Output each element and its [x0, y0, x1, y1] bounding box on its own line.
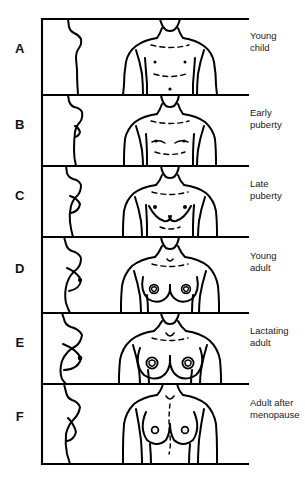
front-d-neck-right [178, 246, 185, 257]
front-e-areola-right [182, 357, 193, 368]
front-f-shoulder-left [123, 395, 157, 464]
front-e-head-jaw [161, 313, 179, 324]
profile-a-chest-contour [68, 19, 81, 95]
front-b-clavicle-line [151, 121, 189, 124]
front-e-breast-contour-right [170, 348, 202, 379]
panel-f-artwork [64, 384, 217, 464]
front-b-breast-bud-left [152, 141, 165, 143]
front-d-shoulder-right [185, 257, 219, 313]
front-d-torso [121, 237, 219, 313]
profile-f-chest-contour [64, 384, 80, 464]
front-b-breast-bud-right [175, 141, 188, 143]
front-b-shoulder-right [183, 114, 216, 166]
front-f-torso-side-left [150, 444, 151, 464]
front-f-neck-right [177, 384, 183, 395]
profile-f-breast-sagging [67, 418, 76, 441]
stage-letter-c: C [0, 188, 40, 203]
front-e-arm-inner-left [133, 345, 140, 384]
front-e-torso-side-right [191, 370, 192, 384]
front-b-neck-right [178, 104, 183, 114]
front-b-torso-side-left [146, 134, 147, 166]
front-f-areola-left [152, 427, 159, 434]
front-b-torso-side-right [193, 134, 194, 166]
front-d-shoulder-left [121, 257, 155, 313]
front-d-head-jaw [161, 237, 179, 249]
front-a-torso [123, 19, 217, 95]
front-e-torso-side-left [148, 370, 149, 384]
panel-frame [42, 19, 248, 464]
front-c-nipple-right [183, 205, 187, 209]
profile-c-breast-mound [70, 196, 80, 213]
front-c-neck-right [178, 175, 184, 185]
stage-letter-e: E [0, 335, 40, 350]
front-b-ribcage-line [155, 152, 185, 155]
front-d-arm-inner-left [134, 271, 141, 313]
panel-d-artwork [64, 237, 219, 313]
profile-e-breast-mound [63, 344, 81, 370]
front-d-breast-contour-right [170, 277, 198, 302]
front-f-torso-side-right [189, 444, 190, 464]
front-a-shoulder-left [123, 38, 157, 95]
front-c-torso-side-left [146, 205, 147, 237]
front-d-torso-side-right [192, 295, 193, 313]
front-f-breast-contour-left [143, 412, 170, 444]
front-a-clavicle-line [151, 45, 189, 48]
stage-label-adult-after-menopause: Adult after menopause [250, 397, 305, 420]
front-e-shoulder-right [186, 331, 221, 384]
front-c-breast-contour-left [149, 206, 171, 221]
front-a-neck-right [178, 28, 183, 38]
profile-d-breast-mound [67, 268, 81, 291]
front-a-umbilicus [168, 87, 171, 90]
front-f-breast-contour-right [170, 412, 197, 444]
front-e-neck-left [154, 321, 162, 331]
front-e-areola-left [146, 357, 157, 368]
front-b-neck-left [157, 104, 162, 114]
stage-label-early-puberty: Early puberty [250, 107, 305, 130]
profile-e-nipple [78, 356, 83, 361]
profile-d-nipple [78, 278, 82, 282]
front-c-arm-inner-right [198, 197, 205, 237]
front-d-arm-inner-right [199, 271, 206, 313]
front-b-nipple-right [182, 139, 185, 142]
front-a-arm-inner-left [136, 50, 143, 95]
front-d-clavicle-line [152, 264, 188, 267]
front-b-head-jaw [161, 95, 179, 107]
profile-d-chest-contour [64, 237, 81, 313]
front-e-clavicle-line [152, 338, 188, 341]
front-c-torso-side-right [193, 205, 194, 237]
front-d-neck-left [155, 246, 162, 257]
panel-b-artwork [68, 95, 216, 166]
front-f-torso [123, 384, 217, 464]
front-c-neck-left [156, 175, 162, 185]
front-a-neck-left [157, 28, 162, 38]
front-a-torso-side-left [145, 58, 147, 95]
front-b-arm-inner-left [136, 126, 143, 166]
front-c-nipple-left [153, 205, 157, 209]
front-a-ribcage-line [154, 74, 186, 77]
front-f-sternum-line [169, 404, 170, 454]
front-c-breast-contour-right [169, 206, 191, 221]
stage-label-column: Young child Early puberty Late puberty Y… [250, 0, 305, 478]
front-e-sternal-notch [166, 333, 174, 336]
stage-label-young-adult: Young adult [250, 250, 305, 273]
front-b-torso [124, 95, 216, 166]
profile-b-chest-contour [68, 95, 82, 166]
front-a-nipple-right [184, 61, 187, 64]
front-c-shoulder-left [123, 185, 156, 237]
front-f-arm-inner-left [136, 409, 142, 464]
front-a-shoulder-right [183, 38, 217, 95]
front-d-areola-left [150, 285, 159, 294]
stage-label-young-child: Young child [250, 30, 305, 53]
front-d-sternal-notch [167, 259, 173, 261]
stage-letter-b: B [0, 117, 40, 132]
stage-label-lactating-adult: Lactating adult [250, 325, 305, 348]
front-a-torso-side-right [193, 58, 195, 95]
panel-a-artwork [68, 19, 217, 95]
stage-letter-d: D [0, 261, 40, 276]
front-d-torso-side-left [147, 295, 148, 313]
front-a-nipple-left [154, 61, 157, 64]
front-e-neck-right [178, 321, 186, 331]
panel-e-artwork [61, 313, 222, 384]
front-f-shoulder-right [183, 395, 217, 464]
front-f-sternal-notch [166, 396, 174, 399]
